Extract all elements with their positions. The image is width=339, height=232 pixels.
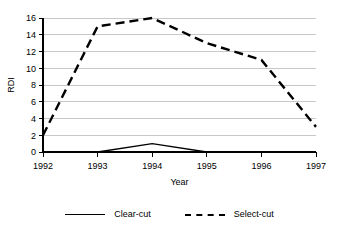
y-axis-title: RDI — [6, 77, 16, 93]
legend-label-clear-cut: Clear-cut — [114, 209, 151, 219]
legend-entry-clear-cut: Clear-cut — [65, 209, 151, 219]
y-tick-marks — [39, 18, 43, 152]
x-tick-label: 1996 — [251, 161, 271, 171]
legend-swatch-dashed-line-icon — [185, 209, 225, 219]
y-tick-labels: 0246810121416 — [26, 13, 36, 157]
x-tick-marks — [43, 152, 316, 157]
y-tick-label: 16 — [26, 13, 36, 23]
y-tick-label: 0 — [31, 147, 36, 157]
y-tick-label: 6 — [31, 97, 36, 107]
series-line-clear-cut — [43, 144, 316, 152]
y-tick-label: 12 — [26, 47, 36, 57]
y-tick-label: 14 — [26, 30, 36, 40]
x-tick-label: 1997 — [306, 161, 326, 171]
x-tick-label: 1995 — [197, 161, 217, 171]
legend-swatch-solid-line-icon — [65, 209, 105, 219]
chart-legend: Clear-cut Select-cut — [0, 196, 339, 232]
y-tick-label: 2 — [31, 131, 36, 141]
x-tick-label: 1992 — [33, 161, 53, 171]
plot-area: 0246810121416 199219931994199519961997 R… — [0, 0, 339, 196]
y-tick-label: 8 — [31, 80, 36, 90]
legend-label-select-cut: Select-cut — [234, 209, 274, 219]
x-tick-label: 1994 — [142, 161, 162, 171]
x-tick-label: 1993 — [88, 161, 108, 171]
series-line-select-cut — [43, 18, 316, 135]
legend-entry-select-cut: Select-cut — [185, 209, 274, 219]
y-tick-label: 10 — [26, 64, 36, 74]
x-tick-labels: 199219931994199519961997 — [33, 161, 326, 171]
line-chart: 0246810121416 199219931994199519961997 R… — [0, 0, 339, 232]
x-axis-title: Year — [170, 177, 188, 187]
plot-svg: 0246810121416 199219931994199519961997 R… — [0, 0, 339, 196]
y-tick-label: 4 — [31, 114, 36, 124]
